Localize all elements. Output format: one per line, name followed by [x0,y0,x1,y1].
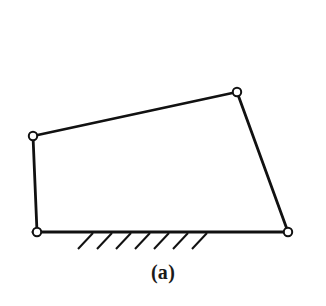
figure-caption: (a) [0,262,326,282]
bottom-right-joint [284,228,292,236]
bottom-left-joint [33,228,41,236]
top-right-joint [233,88,241,96]
figure-container: (a) [0,0,326,306]
top-left-joint [29,132,37,140]
